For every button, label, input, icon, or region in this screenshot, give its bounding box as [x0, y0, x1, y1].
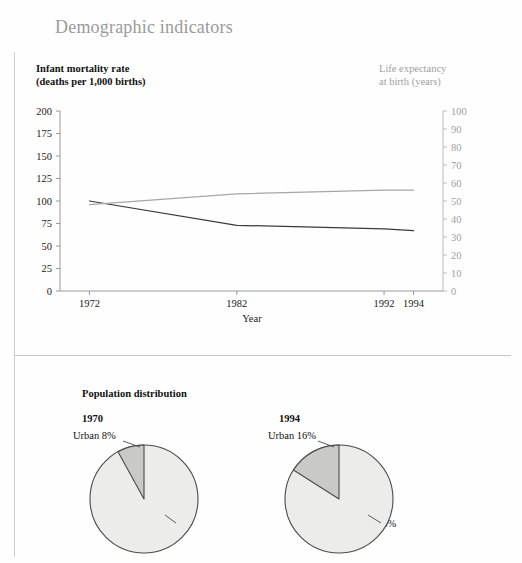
left-ytick-150: 150 [36, 151, 52, 162]
xtick-1994: 1994 [403, 298, 425, 309]
xtick-1972: 1972 [79, 298, 100, 309]
chart-tick-labels: 0255075100125150175200010203040506070809… [36, 106, 467, 309]
right-ytick-0: 0 [451, 286, 456, 297]
right-ytick-90: 90 [451, 124, 462, 135]
right-ytick-100: 100 [451, 106, 467, 117]
left-ytick-50: 50 [42, 241, 53, 252]
left-ytick-175: 175 [36, 128, 52, 139]
right-ytick-20: 20 [451, 250, 462, 261]
left-ytick-100: 100 [36, 196, 52, 207]
right-ytick-10: 10 [451, 268, 462, 279]
x-axis-label: Year [242, 313, 262, 324]
page-canvas: Demographic indicators Infant mortality … [0, 0, 522, 563]
line-chart-svg: 0255075100125150175200010203040506070809… [0, 0, 522, 355]
population-distribution-panel: Population distribution 1970 Urban 8% Ru… [0, 355, 522, 563]
pie-leader-lines [0, 355, 522, 563]
chart-axes [60, 111, 443, 291]
right-ytick-70: 70 [451, 160, 462, 171]
left-ytick-200: 200 [36, 106, 52, 117]
right-ytick-60: 60 [451, 178, 462, 189]
left-ytick-75: 75 [42, 218, 53, 229]
right-ytick-80: 80 [451, 142, 462, 153]
xtick-1982: 1982 [226, 298, 247, 309]
right-ytick-40: 40 [451, 214, 462, 225]
right-ytick-50: 50 [451, 196, 462, 207]
xtick-1992: 1992 [374, 298, 395, 309]
left-ytick-125: 125 [36, 173, 52, 184]
chart-series [89, 190, 413, 231]
series-line-life-expectancy-at-birth [89, 190, 413, 204]
series-line-infant-mortality-rate [89, 201, 413, 231]
left-ytick-0: 0 [47, 286, 52, 297]
right-ytick-30: 30 [451, 232, 462, 243]
demographic-line-chart-panel: Infant mortality rate (deaths per 1,000 … [0, 0, 522, 355]
left-ytick-25: 25 [42, 263, 53, 274]
